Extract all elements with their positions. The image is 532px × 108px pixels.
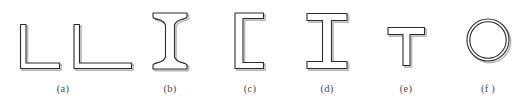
structural-shapes-figure: (a) (b) (c) (d) (e) (f ) [0, 0, 532, 108]
pipe-inner-circle [470, 22, 506, 58]
caption-row: (a) (b) (c) (d) (e) (f ) [0, 82, 532, 102]
caption-a: (a) [33, 82, 93, 96]
caption-c: (c) [220, 82, 280, 96]
caption-b: (b) [140, 82, 200, 96]
caption-d: (d) [297, 82, 357, 96]
caption-f: (f ) [458, 82, 518, 96]
caption-e: (e) [376, 82, 436, 96]
